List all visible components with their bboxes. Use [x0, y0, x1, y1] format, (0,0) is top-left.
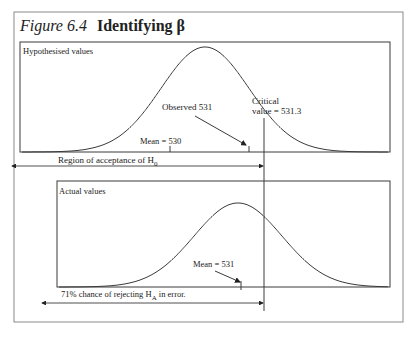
beta-region-label: 71% chance of rejecting HA in error.	[61, 289, 186, 302]
upper-panel-heading: Hypothesised values	[23, 46, 93, 56]
mean-531-label: Mean = 531	[193, 259, 234, 269]
observed-pointer-arrow	[195, 116, 246, 145]
observed-label: Observed 531	[162, 102, 212, 112]
acceptance-region-label-sub: 0	[154, 160, 158, 168]
mean-530-label: Mean = 530	[140, 136, 181, 146]
lower-panel-frame	[57, 181, 390, 287]
figure-diagram: Figure 6.4Identifying β Hypothesised val…	[0, 0, 414, 337]
upper-panel-frame	[20, 42, 390, 152]
critical-label-line2: value = 531.3	[252, 106, 302, 116]
outer-frame	[14, 12, 403, 322]
acceptance-region-label-main: Region of acceptance of H	[58, 155, 154, 165]
beta-label-main: 71% chance of rejecting H	[61, 289, 152, 299]
hypothesised-distribution-curve	[22, 47, 388, 152]
figure-title-text: Identifying β	[97, 17, 185, 35]
beta-label-tail: in error.	[157, 289, 186, 299]
lower-panel-heading: Actual values	[59, 186, 106, 196]
figure-title: Figure 6.4Identifying β	[19, 17, 185, 35]
critical-label-line1: Critical	[252, 96, 279, 106]
mean-531-pointer-arrow	[215, 271, 240, 282]
figure-label: Figure 6.4	[19, 17, 87, 35]
